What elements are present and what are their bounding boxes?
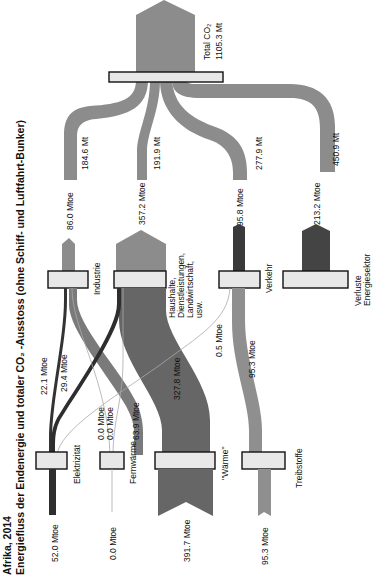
energy-verkehr-value: 95.8 Mtoe (235, 188, 245, 226)
verluste-input-arrow (302, 224, 330, 272)
label-haushalte: Haushalte, Dienstleistungen, Landwirtsch… (167, 253, 204, 318)
label-verluste: Verluste Energiesektor (353, 253, 372, 306)
flow-label-327-8: 327.8 Mtoe (172, 357, 182, 400)
flow-label-95-3: 95.3 Mtoe (247, 340, 257, 378)
treibstoffe-output-arrow (258, 469, 271, 516)
node-verkehr (219, 271, 260, 288)
flow-label-fern-hh: 0.0 Mtoe (105, 407, 115, 440)
treibstoffe-value: 95.3 Mtoe (260, 527, 270, 565)
flow-label-63-9: 63.9 Mtoe (131, 402, 141, 440)
node-verluste (283, 271, 348, 288)
node-industrie (48, 271, 88, 288)
node-waerme (155, 452, 215, 469)
label-waerme: "Wärme" (220, 447, 230, 480)
total-co2-label: Total CO₂ (202, 24, 212, 60)
flow-label-29-4: 29.4 Mtoe (59, 354, 69, 392)
node-fernwaerme (100, 452, 124, 469)
flow-label-22-1: 22.1 Mtoe (39, 357, 49, 395)
co2-verkehr-value: 277.9 Mt (254, 136, 264, 170)
total-co2-node (109, 72, 223, 82)
waerme-output-arrow (158, 469, 213, 516)
waerme-value: 391.7 Mtoe (182, 519, 192, 562)
label-elektrizitaet: Elektrizität (72, 444, 82, 484)
verkehr-input-arrow (233, 224, 245, 272)
node-treibstoffe (242, 452, 285, 469)
label-industrie: Industrie (92, 262, 102, 295)
energy-verluste-value: 213.2 Mtoe (312, 182, 322, 225)
svg-text:Energiesektor: Energiesektor (362, 253, 372, 306)
svg-text:usw.: usw. (194, 301, 204, 318)
flow-label-0-5: 0.5 Mtoe (214, 324, 224, 357)
haushalte-input-arrow (116, 230, 166, 272)
label-verkehr: Verkehr (264, 264, 274, 293)
co2-flow-industrie (64, 80, 148, 180)
fernwaerme-value: 0.0 Mtoe (108, 527, 118, 560)
label-treibstoffe: Treibstoffe (294, 448, 304, 488)
title-line1: Afrika, 2014 (1, 516, 13, 575)
total-co2-value: 1105.3 Mt (214, 22, 224, 60)
sankey-diagram: Total CO₂ 1105.3 Mt 184.6 Mt 191.9 Mt 27… (0, 0, 378, 576)
elektrizitaet-value: 52.0 Mtoe (50, 524, 60, 562)
title-line2: Energiefluss der Endenergie und totaler … (14, 120, 26, 575)
total-co2-arrow (136, 0, 195, 72)
node-elektrizitaet (36, 452, 67, 469)
elektrizitaet-output-arrow (49, 469, 56, 515)
energy-industrie-value: 86.0 Mtoe (65, 192, 75, 230)
node-haushalte (114, 271, 166, 288)
industrie-input-arrow (62, 238, 75, 272)
energy-haushalte-value: 357.2 Mtoe (137, 182, 147, 225)
label-fernwaerme: Fernwärme (128, 441, 138, 484)
co2-industrie-value: 184.6 Mt (80, 136, 90, 170)
co2-verluste-value: 450.9 Mt (331, 132, 341, 166)
co2-haushalte-value: 191.9 Mt (152, 136, 162, 170)
